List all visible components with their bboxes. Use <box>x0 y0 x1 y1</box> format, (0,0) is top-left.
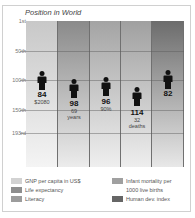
person-icon <box>132 87 142 106</box>
rank-value: 98 <box>58 100 90 108</box>
y-tick-1st: 1st <box>4 18 26 24</box>
legend-swatch-literacy <box>11 196 22 202</box>
legend-swatch-gnp <box>11 178 22 184</box>
person-icon <box>163 70 173 89</box>
legend-swatch-infant-mortality <box>112 178 123 184</box>
chart-title: Position in World <box>25 8 81 17</box>
legend-swatch-life-expectancy <box>11 187 22 193</box>
legend-swatch-hdi <box>112 196 123 202</box>
legend-label-literacy: Literacy <box>25 196 44 202</box>
legend-label-gnp: GNP per capita in US$ <box>25 178 81 184</box>
legend-label-hdi: Human dev. index <box>126 196 170 202</box>
rank-value: 82 <box>152 90 184 98</box>
tick-mark <box>20 51 26 52</box>
detail-value: $2080 <box>26 99 58 105</box>
tick-mark <box>20 80 26 81</box>
rank-value: 114 <box>121 109 153 117</box>
tick-mark <box>20 110 26 111</box>
tick-mark <box>20 133 26 134</box>
legend-label-infant-mortality-1: Infant mortality per <box>126 178 172 184</box>
detail-unit: years <box>58 114 90 120</box>
gridline-50th <box>26 51 184 52</box>
legend-label-infant-mortality-2: 1000 live births <box>126 187 163 193</box>
rank-value: 84 <box>26 91 58 99</box>
gridline-193rd <box>26 133 184 134</box>
person-icon <box>101 77 111 96</box>
detail-value: 90% <box>90 106 122 112</box>
rank-value: 96 <box>90 98 122 106</box>
person-icon <box>69 79 79 98</box>
detail-unit: deaths <box>121 123 153 129</box>
legend-label-life-expectancy: Life expectancy <box>25 187 63 193</box>
person-icon <box>37 71 47 90</box>
